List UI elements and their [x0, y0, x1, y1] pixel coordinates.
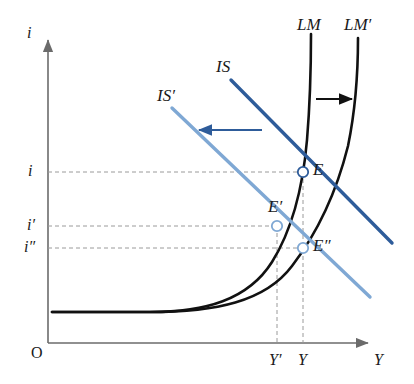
diagram-canvas: [0, 0, 414, 384]
point-E: [298, 167, 308, 177]
origin-label: O: [31, 345, 43, 361]
y-tick-i-prime: i′: [27, 217, 35, 233]
y-tick-i-dprime: i″: [24, 239, 35, 255]
x-tick-Y-prime: Y′: [269, 352, 281, 368]
equilibrium-label-E: E: [313, 161, 323, 178]
y-axis-label: i: [27, 25, 31, 41]
x-tick-Y: Y: [298, 352, 307, 368]
x-axis-label: Y: [374, 352, 383, 368]
is-lm-diagram: i Y O i i′ i″ Y′ Y LM LM′ IS IS′ E E′ E″: [0, 0, 414, 384]
point-E-dprime: [298, 243, 308, 253]
y-tick-i: i: [28, 163, 32, 179]
is-curve-label: IS: [216, 58, 230, 75]
equilibrium-label-E-prime: E′: [268, 198, 282, 215]
lm-curve-label: LM: [297, 16, 321, 33]
is-curve: [231, 80, 392, 243]
axis-group: [48, 40, 368, 343]
lm-prime-curve-label: LM′: [344, 16, 371, 33]
is-prime-curve-label: IS′: [157, 87, 175, 104]
equilibrium-label-E-dprime: E″: [313, 237, 330, 254]
lm-curve: [52, 34, 311, 312]
point-E-prime: [272, 221, 282, 231]
